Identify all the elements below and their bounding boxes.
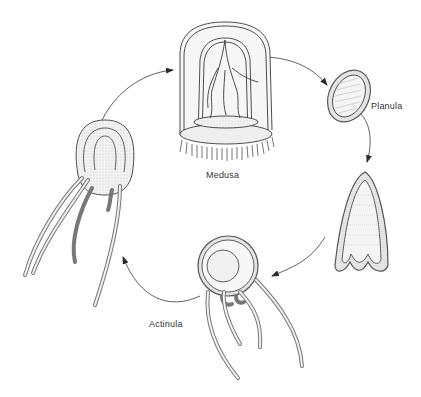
medusa-illustration (180, 22, 274, 161)
arrow-planula-to-settling (360, 113, 370, 162)
arrow-settling-to-actinula (272, 237, 325, 276)
arrow-actinula-to-juvenile (123, 257, 200, 302)
arrow-medusa-to-planula (265, 57, 327, 85)
actinula-illustration (198, 236, 302, 378)
settling-planula-illustration (335, 172, 388, 271)
juvenile-illustration (25, 120, 134, 305)
planula-illustration (319, 63, 378, 129)
life-cycle-diagram (0, 0, 421, 397)
label-medusa: Medusa (206, 170, 239, 180)
label-planula: Planula (371, 101, 402, 111)
arrow-juvenile-to-medusa (102, 70, 173, 120)
label-actinula: Actinula (149, 319, 183, 329)
